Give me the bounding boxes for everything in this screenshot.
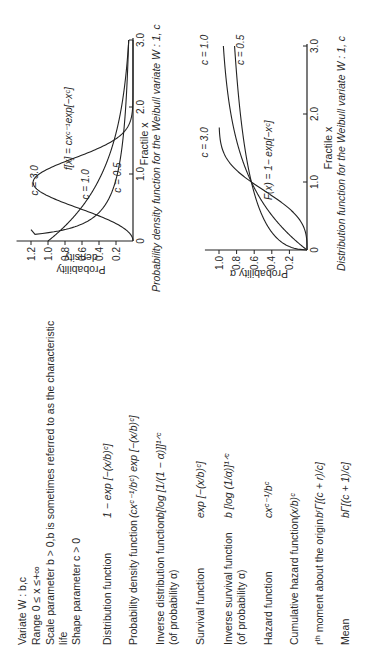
x-tick-label: 1.0 — [135, 167, 146, 181]
x-tick-label: 0 — [135, 238, 146, 244]
y-tick-label: 0.6 — [249, 256, 260, 270]
x-tick-label: 3.0 — [309, 39, 320, 53]
series-line — [31, 40, 129, 234]
pdf-chart: Probabilitydensity Fractile x Probabilit… — [17, 24, 162, 292]
series-label: c = 1.0 — [199, 34, 210, 65]
y-tick-label: 0.2 — [111, 247, 122, 261]
y-tick-label: 0.8 — [231, 256, 242, 270]
y-tick-label: 0.4 — [94, 247, 105, 261]
cdf-chart: Fractile x Distribution function for the… — [199, 34, 347, 280]
x-tick-label: 3.0 — [135, 33, 146, 47]
cdf-ylabel: Probability α — [230, 268, 288, 280]
y-tick-label: 1.2 — [26, 247, 37, 261]
cdf-title: Distribution function for the Weibull va… — [335, 35, 347, 271]
y-tick-label: 0.4 — [266, 256, 277, 270]
pdf-annotation: f[x] = cxᶜ⁻¹exp[−xᶜ] — [63, 87, 74, 170]
series-line — [48, 40, 129, 241]
series-label: c = 3.0 — [29, 165, 40, 196]
y-tick-label: 0.6 — [77, 247, 88, 261]
series-label: c = 3.0 — [199, 127, 210, 158]
x-tick-label: 0 — [309, 247, 320, 253]
series-label: c = 1.0 — [80, 169, 91, 200]
cdf-annotation: F(x) = 1− exp[−xᶜ] — [263, 120, 274, 200]
x-tick-label: 1.0 — [309, 175, 320, 189]
series-line — [33, 40, 133, 241]
pdf-ylabel-word: Probability — [56, 264, 106, 276]
x-tick-label: 2.0 — [309, 107, 320, 121]
x-tick-label: 2.0 — [135, 100, 146, 114]
y-tick-label: 0.2 — [284, 256, 295, 270]
document-page: Variate W : b,c Range 0 ≤ x ≤+∞ Scale pa… — [0, 0, 369, 658]
pdf-title: Probability density function for the Wei… — [150, 24, 162, 292]
pdf-xlabel: Fractile x — [138, 122, 150, 165]
series-label: c = 0.5 — [112, 162, 123, 193]
cdf-xlabel: Fractile x — [322, 126, 334, 169]
y-tick-label: 0.8 — [60, 247, 71, 261]
charts-canvas: Probabilitydensity Fractile x Probabilit… — [0, 0, 369, 658]
y-tick-label: 1.0 — [43, 247, 54, 261]
y-tick-label: 1.0 — [214, 256, 225, 270]
series-label: c = 0.5 — [235, 34, 246, 65]
